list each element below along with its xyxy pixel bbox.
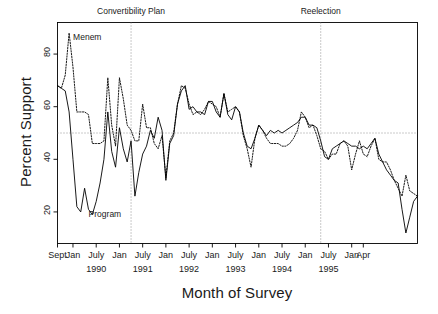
x-tick-label: July xyxy=(274,250,290,260)
chart-plot-area xyxy=(0,0,438,314)
x-year-label: 1995 xyxy=(318,264,338,274)
x-year-label: 1993 xyxy=(226,264,246,274)
chart-figure: Percent Support Month of Survey 20406080… xyxy=(0,0,438,314)
series-label-menem: Menem xyxy=(73,32,101,42)
x-year-label: 1994 xyxy=(272,264,292,274)
x-tick-label: Jan xyxy=(159,250,174,260)
y-tick-label: 40 xyxy=(42,148,52,166)
x-axis-title: Month of Survey xyxy=(57,284,417,301)
x-year-label: 1990 xyxy=(86,264,106,274)
series-label-program: Program xyxy=(89,209,122,219)
y-tick-label: 20 xyxy=(42,201,52,219)
series-line-menem xyxy=(58,33,418,196)
y-axis-title: Percent Support xyxy=(14,12,38,252)
x-tick-label: July xyxy=(181,250,197,260)
x-tick-label: Jan xyxy=(112,250,127,260)
event-label-reelection: Reelection xyxy=(301,6,341,16)
x-tick-label: Jan xyxy=(252,250,267,260)
x-tick-label: Apr xyxy=(356,250,370,260)
x-year-label: 1992 xyxy=(179,264,199,274)
x-tick-label: Sept xyxy=(48,250,67,260)
x-tick-label: July xyxy=(135,250,151,260)
x-year-label: 1991 xyxy=(133,264,153,274)
x-tick-label: July xyxy=(88,250,104,260)
x-tick-label: Jan xyxy=(205,250,220,260)
x-tick-label: Jan xyxy=(66,250,81,260)
x-tick-label: Jan xyxy=(298,250,313,260)
y-tick-label: 60 xyxy=(42,96,52,114)
x-tick-label: July xyxy=(228,250,244,260)
event-label-convertibility-plan: Convertibility Plan xyxy=(97,6,165,16)
x-tick-label: July xyxy=(320,250,336,260)
y-tick-label: 80 xyxy=(42,43,52,61)
